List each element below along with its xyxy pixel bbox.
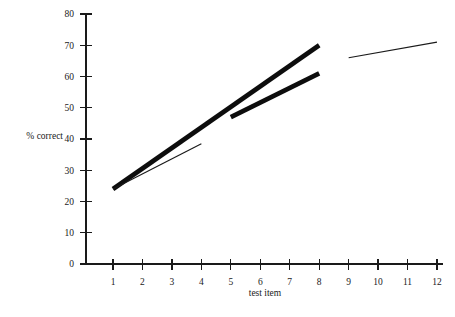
x-ticks-group: 123456789101112 <box>111 259 442 287</box>
x-tick-label: 8 <box>317 277 322 287</box>
series-line-thin-trend-items-9-12 <box>349 42 437 58</box>
series-line-thick-trend-items-1-8 <box>113 45 319 189</box>
x-tick-label: 5 <box>228 277 233 287</box>
x-tick-label: 6 <box>258 277 263 287</box>
x-tick-label: 10 <box>373 277 383 287</box>
line-chart-plot: 01020304050607080 123456789101112 % corr… <box>0 0 455 317</box>
data-series-group <box>113 42 437 189</box>
series-line-thin-trend-items-1-4 <box>113 144 201 189</box>
x-tick-label: 11 <box>403 277 412 287</box>
chart-container: 01020304050607080 123456789101112 % corr… <box>0 0 455 317</box>
x-tick-label: 7 <box>287 277 292 287</box>
axes-group <box>86 14 443 264</box>
x-tick-label: 1 <box>111 277 116 287</box>
x-tick-label: 4 <box>199 277 204 287</box>
y-tick-label: 60 <box>65 72 75 82</box>
y-tick-label: 40 <box>65 134 75 144</box>
y-tick-label: 10 <box>65 228 75 238</box>
y-tick-label: 80 <box>65 9 75 19</box>
y-tick-label: 70 <box>65 41 75 51</box>
y-axis-title: % correct <box>26 131 63 141</box>
y-tick-label: 20 <box>65 197 75 207</box>
y-ticks-group: 01020304050607080 <box>65 9 93 269</box>
y-tick-label: 30 <box>65 166 75 176</box>
x-tick-label: 3 <box>170 277 175 287</box>
x-tick-label: 12 <box>432 277 442 287</box>
x-axis-title: test item <box>249 288 282 298</box>
y-tick-label: 0 <box>69 259 74 269</box>
x-tick-label: 2 <box>140 277 145 287</box>
x-tick-label: 9 <box>346 277 351 287</box>
y-tick-label: 50 <box>65 103 75 113</box>
